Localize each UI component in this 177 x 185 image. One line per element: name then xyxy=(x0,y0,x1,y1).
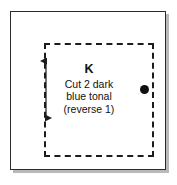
pattern-piece-label: K Cut 2 dark blue tonal (reverse 1) xyxy=(42,63,136,115)
description-line-1: Cut 2 dark xyxy=(42,78,136,91)
description-line-3: (reverse 1) xyxy=(42,103,136,116)
pattern-piece-outer-frame: K Cut 2 dark blue tonal (reverse 1) xyxy=(10,11,166,170)
description-line-2: blue tonal xyxy=(42,90,136,103)
piece-letter: K xyxy=(42,63,136,76)
match-dot-icon xyxy=(140,85,149,94)
